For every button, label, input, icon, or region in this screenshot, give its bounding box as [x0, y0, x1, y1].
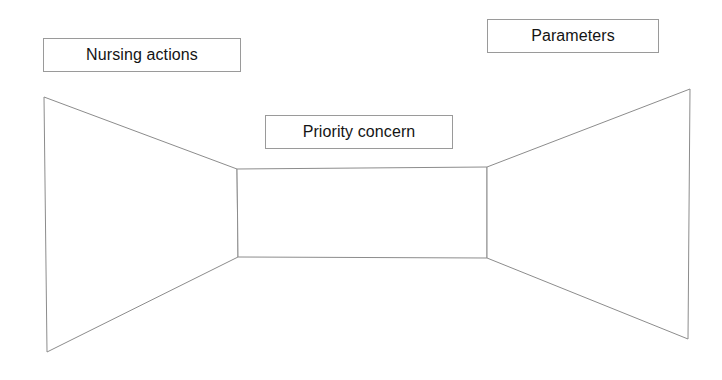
label-box-nursing-actions: Nursing actions	[43, 38, 241, 72]
left-trapezoid-shape	[44, 97, 238, 352]
label-box-priority-concern: Priority concern	[265, 115, 453, 149]
label-text-parameters: Parameters	[531, 28, 615, 45]
right-trapezoid-shape	[487, 89, 690, 339]
center-rectangle-shape	[237, 167, 487, 258]
bowtie-diagram-canvas: Nursing actions Priority concern Paramet…	[0, 0, 722, 380]
label-text-priority-concern: Priority concern	[303, 124, 416, 141]
label-box-parameters: Parameters	[487, 19, 659, 53]
label-text-nursing-actions: Nursing actions	[86, 47, 198, 64]
